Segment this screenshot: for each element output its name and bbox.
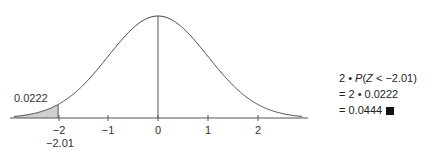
tick-label-1: 1 [205,124,211,136]
tick-label-2: 2 [255,124,261,136]
calc-line-2: = 2 • 0.0222 [339,86,417,102]
calc-line-3: = 0.0444 [339,102,417,118]
tail-area-label: 0.0222 [14,92,48,104]
tick-label-neg2: −2 [53,124,66,136]
tick-label-neg1: −1 [102,124,115,136]
end-of-proof-icon [386,107,394,115]
z-value-label: −2.01 [46,137,74,149]
tick-label-0: 0 [155,124,161,136]
calc-line-1: 2 • P(Z < −2.01) [339,70,417,86]
calculation-block: 2 • P(Z < −2.01) = 2 • 0.0222 = 0.0444 [339,70,417,118]
